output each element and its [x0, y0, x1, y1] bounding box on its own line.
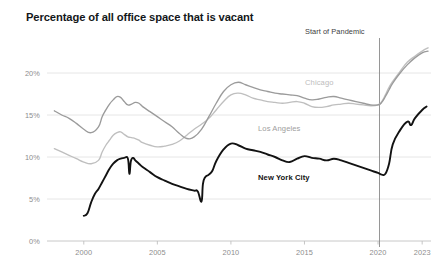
y-axis-tick-5: 5%	[14, 195, 40, 204]
x-axis-tick-2020: 2020	[358, 248, 398, 257]
y-axis-tick-15: 15%	[14, 111, 40, 120]
y-axis-tick-20: 20%	[14, 69, 40, 78]
annotation-start-of-pandemic: Start of Pandemic	[305, 27, 365, 36]
y-axis-tick-0: 0%	[14, 237, 40, 246]
chart-container: Percentage of all office space that is v…	[0, 0, 437, 267]
x-axis-tick-2023: 2023	[402, 248, 437, 257]
x-axis-tick-2010: 2010	[211, 248, 251, 257]
x-axis-tick-2005: 2005	[137, 248, 177, 257]
series-label-chicago: Chicago	[305, 78, 334, 87]
series-label-new-york-city: New York City	[258, 173, 310, 182]
series-label-los-angeles: Los Angeles	[258, 124, 300, 133]
x-axis-tick-2015: 2015	[284, 248, 324, 257]
y-axis-tick-10: 10%	[14, 153, 40, 162]
series-line-los-angeles	[54, 51, 428, 139]
plot-area	[0, 0, 437, 267]
x-axis-tick-2000: 2000	[64, 248, 104, 257]
chart-svg	[0, 0, 437, 267]
